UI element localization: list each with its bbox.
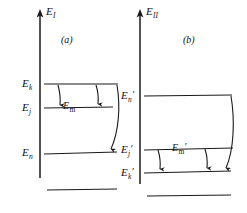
transition-label-a: Em (63, 101, 75, 111)
axis-label-a: EI (46, 6, 55, 17)
level-label-a-0: Ek (22, 78, 32, 89)
level-label-a-2: En (22, 147, 32, 158)
panel-caption-b: (b) (183, 35, 195, 45)
axis-label-b: EII (146, 6, 158, 17)
level-lines-b (144, 95, 233, 196)
level-label-b-2: Ek′ (121, 167, 133, 178)
axis-arrow-b (137, 9, 144, 184)
diagram-canvas (0, 0, 247, 213)
level-label-a-1: Ej (22, 102, 31, 113)
panel-caption-a: (a) (61, 35, 73, 45)
transition-label-b: Em′ (172, 143, 186, 153)
transition-arrows-a (58, 85, 119, 149)
level-label-b-0: En′ (121, 90, 134, 101)
transition-arrows-b (158, 96, 233, 169)
level-lines-a (44, 84, 118, 190)
panel-a-graphics (37, 9, 119, 190)
axis-arrow-a (37, 9, 44, 178)
level-label-b-1: Ej′ (121, 144, 132, 155)
energy-level-diagram: EI (a) Ek Ej En Em EII (b) En′ Ej′ Ek′ E… (0, 0, 247, 213)
